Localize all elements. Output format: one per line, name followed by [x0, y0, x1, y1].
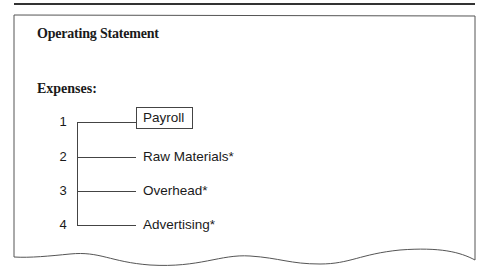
- document-title: Operating Statement: [37, 26, 159, 42]
- item-label-overhead: Overhead*: [143, 183, 208, 198]
- item-number-4: 4: [57, 217, 69, 232]
- section-heading-expenses: Expenses:: [37, 81, 97, 97]
- item-number-1: 1: [57, 114, 69, 129]
- tree-connector-lines: [77, 122, 136, 226]
- item-label-raw-materials: Raw Materials*: [143, 149, 234, 164]
- item-label-payroll: Payroll: [136, 107, 193, 129]
- item-number-2: 2: [57, 149, 69, 164]
- item-label-advertising: Advertising*: [143, 217, 215, 232]
- item-number-3: 3: [57, 183, 69, 198]
